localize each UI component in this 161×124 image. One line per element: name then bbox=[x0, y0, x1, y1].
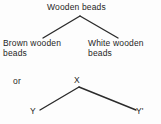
node-label-x: X bbox=[74, 76, 80, 86]
node-label-brown-wooden-beads: Brown wooden beads bbox=[3, 39, 61, 58]
node-label-y: Y bbox=[30, 107, 36, 117]
edge-x-to-y bbox=[40, 87, 79, 110]
connector-label-or: or bbox=[13, 77, 21, 87]
node-label-wooden-beads: Wooden beads bbox=[47, 3, 106, 13]
genetics-branching-diagram: Wooden beads Brown wooden beads White wo… bbox=[0, 0, 161, 124]
edge-x-to-yprime bbox=[79, 87, 136, 110]
edge-root-to-brown bbox=[43, 16, 80, 38]
edge-root-to-white bbox=[80, 16, 118, 38]
node-label-y-prime: Y' bbox=[136, 107, 144, 117]
node-label-white-wooden-beads: White wooden beads bbox=[88, 39, 144, 58]
